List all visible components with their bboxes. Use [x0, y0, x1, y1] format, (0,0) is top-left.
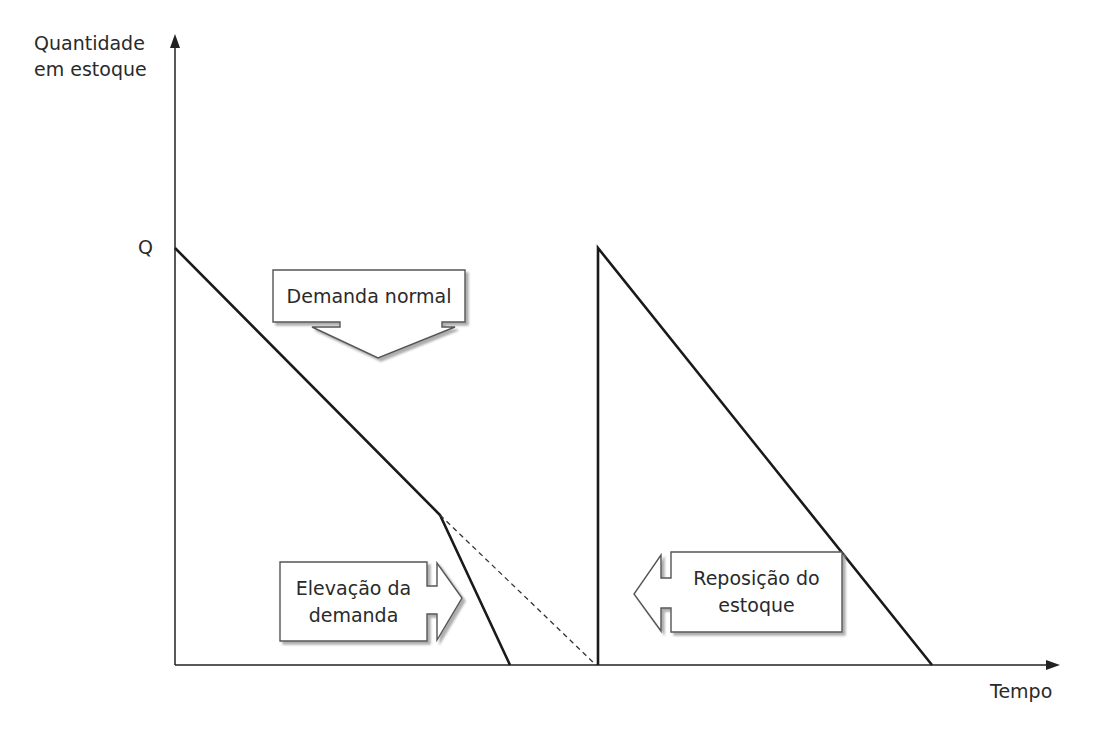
normal-demand-projection [440, 515, 596, 665]
y-axis-arrow-icon [170, 34, 180, 48]
q-tick-label: Q [138, 234, 153, 260]
x-axis [175, 660, 1060, 670]
callout-replenishment-text: Reposição do estoque [671, 565, 842, 619]
y-axis-label: Quantidade em estoque [34, 30, 147, 82]
y-axis [170, 34, 180, 665]
callout-demand-increase-line-1: Elevação da [280, 575, 427, 602]
callout-normal-demand-text: Demanda normal [273, 283, 465, 310]
y-axis-label-line-2: em estoque [34, 56, 147, 82]
inventory-diagram [0, 0, 1094, 733]
x-axis-label: Tempo [990, 678, 1052, 704]
callout-demand-increase-line-2: demanda [280, 602, 427, 629]
callout-demand-increase-text: Elevação da demanda [280, 575, 427, 629]
x-axis-arrow-icon [1046, 660, 1060, 670]
y-axis-label-line-1: Quantidade [34, 30, 147, 56]
callout-replenishment-line-2: estoque [671, 592, 842, 619]
callout-replenishment-line-1: Reposição do [671, 565, 842, 592]
